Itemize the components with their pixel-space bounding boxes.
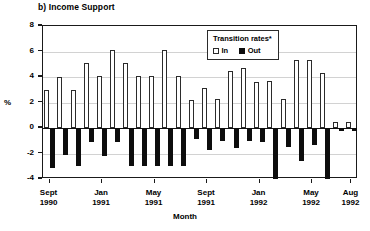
bar-out — [234, 128, 239, 148]
x-axis-tick — [350, 179, 351, 183]
bar-in — [176, 76, 181, 128]
bar-in — [267, 81, 272, 128]
legend-title: Transition rates* — [213, 34, 272, 43]
chart-legend: Transition rates* In Out — [207, 30, 279, 60]
bar-in — [84, 63, 89, 128]
x-axis-tick — [101, 179, 102, 183]
bar-in — [333, 122, 338, 128]
y-axis-tick — [38, 177, 42, 178]
y-axis-tick-label: 4 — [10, 72, 34, 80]
bar-in — [57, 77, 62, 128]
x-axis-tick-label: May1991 — [145, 188, 163, 207]
bar-out — [76, 128, 81, 166]
x-axis-tick — [49, 179, 50, 183]
x-axis-tick-label: Aug1992 — [342, 188, 360, 207]
bar-in — [307, 60, 312, 128]
y-axis-tick-labels: -4-202468 — [8, 0, 34, 231]
bar-in — [320, 73, 325, 128]
bar-in — [346, 122, 351, 128]
x-tick-month: May — [145, 188, 163, 198]
page-title: b) Income Support — [38, 2, 115, 12]
bar-out — [168, 128, 173, 166]
y-axis-tick-label: 2 — [10, 98, 34, 106]
bar-out — [63, 128, 68, 155]
bar-out — [181, 128, 186, 166]
gridline — [43, 52, 356, 53]
y-axis-tick — [38, 24, 42, 25]
legend-entries: In Out — [213, 46, 272, 55]
x-tick-month: Jan — [250, 188, 268, 198]
chart-figure: b) Income Support % -4-202468 Month Tran… — [0, 0, 370, 231]
x-axis-tick — [311, 179, 312, 183]
x-tick-month: Sept — [197, 188, 215, 198]
y-axis-tick — [38, 126, 42, 127]
bar-out — [286, 128, 291, 147]
bar-in — [228, 71, 233, 128]
legend-label-in: In — [222, 46, 229, 55]
x-axis-tick — [259, 179, 260, 183]
x-axis-tick-label: Sept1991 — [197, 188, 215, 207]
bar-in — [136, 76, 141, 128]
x-axis-tick-label: Jan1991 — [92, 188, 110, 207]
x-tick-year: 1991 — [197, 198, 215, 208]
bar-in — [241, 68, 246, 128]
x-tick-year: 1992 — [342, 198, 360, 208]
y-axis-tick-label: -2 — [10, 149, 34, 157]
bar-in — [281, 99, 286, 128]
x-tick-month: Jan — [92, 188, 110, 198]
bar-in — [71, 90, 76, 128]
bar-in — [110, 50, 115, 128]
x-axis-tick-label: May1992 — [302, 188, 320, 207]
x-axis-tick-label: Jan1992 — [250, 188, 268, 207]
x-tick-month: Aug — [342, 188, 360, 198]
bar-out — [273, 128, 278, 179]
bar-out — [339, 128, 344, 131]
bar-in — [202, 88, 207, 128]
bar-in — [123, 63, 128, 128]
x-axis-label: Month — [0, 212, 370, 221]
x-axis-tick-label: Sept1990 — [40, 188, 58, 207]
bar-out — [155, 128, 160, 166]
legend-label-out: Out — [248, 46, 261, 55]
bar-in — [294, 60, 299, 128]
x-tick-month: May — [302, 188, 320, 198]
bar-out — [325, 128, 330, 179]
bar-out — [352, 128, 357, 131]
bar-in — [215, 99, 220, 128]
x-tick-year: 1992 — [302, 198, 320, 208]
x-tick-month: Sept — [40, 188, 58, 198]
x-tick-year: 1992 — [250, 198, 268, 208]
bar-out — [50, 128, 55, 168]
x-axis-tick — [154, 179, 155, 183]
bar-in — [162, 50, 167, 128]
legend-swatch-in-icon — [213, 48, 219, 54]
bar-out — [89, 128, 94, 142]
bar-out — [115, 128, 120, 142]
y-axis-tick-label: 0 — [10, 123, 34, 131]
bar-out — [260, 128, 265, 142]
legend-entry-out: Out — [239, 46, 260, 55]
plot-inner — [43, 26, 356, 177]
y-axis-tick-label: -4 — [10, 174, 34, 182]
x-tick-year: 1991 — [92, 198, 110, 208]
bar-out — [129, 128, 134, 166]
bar-out — [220, 128, 225, 141]
gridline — [43, 154, 356, 155]
legend-swatch-out-icon — [239, 48, 245, 54]
bar-in — [149, 76, 154, 128]
bar-in — [254, 82, 259, 128]
bar-in — [44, 90, 49, 128]
x-tick-year: 1991 — [145, 198, 163, 208]
bar-in — [97, 76, 102, 128]
bar-in — [189, 100, 194, 128]
y-axis-tick-label: 6 — [10, 47, 34, 55]
legend-entry-in: In — [213, 46, 228, 55]
y-axis-tick-label: 8 — [10, 21, 34, 29]
bar-out — [299, 128, 304, 161]
bar-out — [312, 128, 317, 145]
x-tick-year: 1990 — [40, 198, 58, 208]
bar-out — [247, 128, 252, 141]
x-axis-tick — [206, 179, 207, 183]
y-axis-tick — [38, 50, 42, 51]
y-axis-tick — [38, 75, 42, 76]
